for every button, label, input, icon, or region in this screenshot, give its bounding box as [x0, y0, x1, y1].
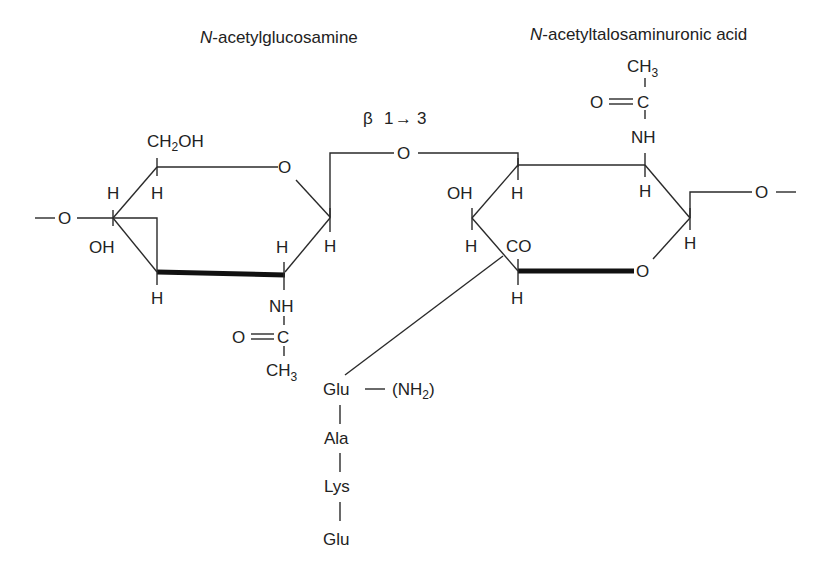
- nh-right: NH: [631, 128, 656, 147]
- bond: [113, 218, 157, 272]
- h-c4-left: H: [107, 184, 119, 203]
- nh-left: NH: [269, 297, 294, 316]
- left-link-oxygen: O: [58, 209, 71, 228]
- bond: [690, 192, 752, 218]
- residue-ala: Ala: [324, 429, 349, 448]
- linkage-arrow: →: [395, 109, 412, 128]
- oh-c4-left: OH: [89, 238, 115, 257]
- methyl-left: CH3: [266, 361, 298, 384]
- bold-bond: [157, 272, 285, 275]
- peptidoglycan-structure-diagram: N-acetylglucosamine N-acetyltalosaminuro…: [0, 0, 826, 575]
- h-c1-left: H: [324, 237, 336, 256]
- linkage-to: 3: [417, 109, 426, 128]
- bond: [645, 165, 690, 218]
- bond: [418, 153, 518, 167]
- peptide-chain: Glu (NH2) Ala Lys Glu: [323, 256, 503, 549]
- residue-lys: Lys: [324, 477, 350, 496]
- ch2oh-label: CH2OH: [147, 132, 204, 154]
- co-label: CO: [506, 237, 532, 256]
- title-n-acetyltalosaminuronic-acid: N-acetyltalosaminuronic acid: [530, 25, 747, 44]
- left-sugar-ring: O CH2OH H H OH O H H NH O C CH3 H: [35, 132, 336, 384]
- carbonyl-o-right: O: [590, 93, 603, 112]
- residue-glu-1: Glu: [323, 380, 349, 399]
- h-c2-right: H: [639, 182, 651, 201]
- residue-glu-2: Glu: [323, 530, 349, 549]
- bond: [296, 180, 330, 217]
- linkage-from: 1: [384, 109, 393, 128]
- methyl-right: CH3: [627, 57, 659, 80]
- bond: [330, 153, 394, 218]
- h-c1-right: H: [684, 234, 696, 253]
- ring-oxygen-left: O: [278, 158, 291, 177]
- beta-symbol: β: [363, 109, 373, 128]
- h-c5-right: H: [511, 289, 523, 308]
- lactyl-peptide-bond: [345, 256, 503, 375]
- ring-oxygen-right: O: [636, 262, 649, 281]
- h-c3-left: H: [151, 289, 163, 308]
- h-c4-right: H: [465, 237, 477, 256]
- beta-1-3-linkage: β 1 → 3: [363, 109, 426, 128]
- title-n-acetylglucosamine: N-acetylglucosamine: [200, 28, 358, 47]
- carbonyl-c-left: C: [277, 328, 289, 347]
- glycosidic-bridge: O: [330, 144, 518, 218]
- h-c5-left: H: [151, 184, 163, 203]
- bridge-oxygen: O: [397, 144, 410, 163]
- carbonyl-c-right: C: [637, 93, 649, 112]
- oh-c4-right: OH: [447, 184, 473, 203]
- h-c2-left: H: [276, 238, 288, 257]
- h-c3-right: H: [511, 184, 523, 203]
- right-sugar-ring: O H OH H CO H H NH O C CH3 H O: [447, 57, 796, 308]
- amide-nh2-label: (NH2): [392, 380, 435, 402]
- carbonyl-o-left: O: [232, 328, 245, 347]
- right-link-oxygen: O: [755, 183, 768, 202]
